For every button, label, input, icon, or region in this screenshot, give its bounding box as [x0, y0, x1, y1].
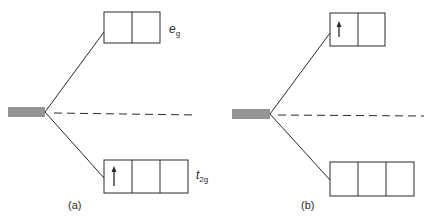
panel-label-a: (a): [68, 199, 81, 211]
t2g-label-a: t2g: [196, 168, 208, 184]
crystal-field-diagram: [0, 0, 424, 220]
connector-t2g-a: [45, 112, 104, 178]
electron-up-arrow-icon: [337, 21, 342, 37]
barycenter-dashed-b: [278, 115, 424, 116]
panel-a: [8, 12, 196, 193]
barycenter-dashed-a: [54, 113, 196, 115]
eg-label-main: e: [169, 22, 176, 36]
t2g-orbital-boxes-b: [330, 162, 414, 196]
panel-label-b: (b): [301, 199, 314, 211]
connector-eg-b: [270, 33, 330, 114]
t2g-label-sub: 2g: [199, 175, 208, 184]
eg-label-a: eg: [169, 22, 180, 38]
connector-t2g-b: [270, 114, 330, 180]
eg-label-sub: g: [176, 29, 180, 38]
eg-orbital-boxes-a: [104, 12, 160, 43]
degenerate-d-level-b: [232, 110, 270, 118]
eg-orbital-boxes-b: [330, 13, 385, 46]
degenerate-d-level-a: [8, 108, 45, 116]
panel-b: [232, 13, 424, 196]
t2g-orbital-boxes-a: [104, 160, 188, 193]
connector-eg-a: [45, 32, 104, 112]
electron-up-arrow-icon: [112, 166, 117, 186]
